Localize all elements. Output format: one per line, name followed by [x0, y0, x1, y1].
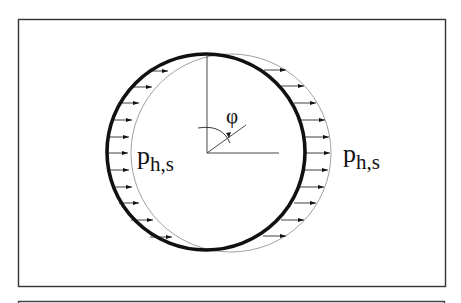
angle-label-phi: φ	[226, 104, 238, 128]
pipe-pressure-diagram: φ ph,s ph,s	[0, 0, 461, 303]
pressure-label-right: ph,s	[343, 139, 380, 174]
pressure-label-left-main: p	[137, 141, 150, 170]
pressure-label-left: ph,s	[137, 141, 174, 176]
pressure-label-left-subscript: h,s	[150, 152, 174, 176]
pressure-label-right-subscript: h,s	[356, 150, 380, 174]
pressure-label-right-main: p	[343, 139, 356, 168]
angle-arc	[198, 127, 230, 143]
angled-radius-line	[207, 125, 246, 153]
